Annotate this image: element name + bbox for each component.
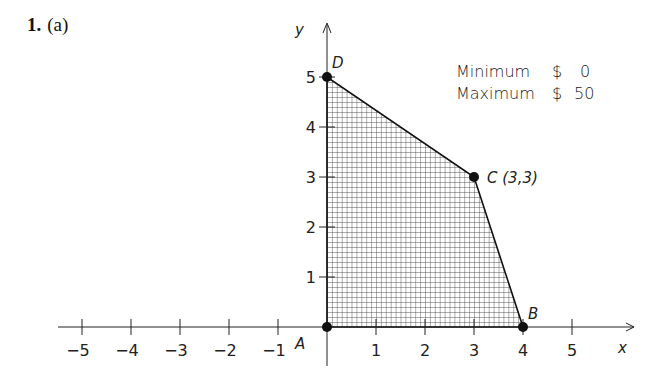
vertex-label-a: A [294,335,305,353]
y-tick-label: 4 [306,118,316,137]
feasible-region [327,77,523,327]
x-tick-label: 4 [518,341,528,360]
feasible-region-chart: −5−4−3−2−112345 12345 x y A B C (3,3) D [0,0,667,392]
minimum-value: 0 [580,61,590,83]
vertex-label-c: C (3,3) [487,169,538,187]
minimum-row: Minimum $ 0 [456,61,594,83]
vertex-point-d [322,72,332,82]
vertex-label-b: B [528,305,538,323]
vertex-point-c [469,172,479,182]
maximum-value: 50 [574,83,594,105]
vertex-point-a [322,322,332,332]
x-tick-label: 3 [469,341,479,360]
vertex-point-b [518,322,528,332]
minimum-currency: $ [552,61,568,83]
x-tick-label: −2 [213,341,237,360]
maximum-label: Maximum [456,83,552,105]
objective-values: Minimum $ 0 Maximum $ 50 [456,61,594,105]
vertex-label-d: D [332,54,344,72]
x-tick-label: −3 [164,341,188,360]
maximum-row: Maximum $ 50 [456,83,594,105]
x-axis-label: x [617,339,627,357]
y-tick-label: 1 [306,268,316,287]
x-tick-label: 2 [420,341,430,360]
x-tick-label: −5 [66,341,90,360]
y-tick-label: 5 [306,68,316,87]
y-axis-label: y [294,21,305,39]
x-tick-label: −4 [115,341,139,360]
maximum-currency: $ [552,83,568,105]
y-tick-label: 2 [306,218,316,237]
y-tick-label: 3 [306,168,316,187]
minimum-label: Minimum [456,61,552,83]
x-tick-label: 1 [371,341,381,360]
x-tick-label: 5 [567,341,577,360]
x-tick-label: −1 [262,341,286,360]
